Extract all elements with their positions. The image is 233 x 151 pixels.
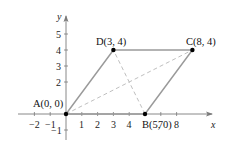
- y-tick-label: 2: [56, 77, 61, 88]
- point-label-c: C(8, 4): [186, 36, 216, 48]
- point-d: [111, 48, 115, 52]
- point-label-a: A(0, 0): [33, 98, 64, 110]
- point-label-d: D(3, 4): [96, 36, 127, 48]
- y-axis-label: y: [56, 11, 62, 22]
- x-tick-label: 3: [111, 119, 116, 130]
- y-tick-label: 5: [56, 29, 61, 40]
- x-tick-label: 2: [95, 119, 100, 130]
- x-tick-label: 4: [127, 119, 132, 130]
- x-tick-label: 8: [174, 119, 179, 130]
- coordinate-diagram: −2 −1 1 2 3 4 7 8 x 5 4 3 2 −1 y A(0, 0)…: [0, 0, 233, 151]
- y-tick-label: −1: [51, 125, 62, 136]
- x-axis-label: x: [210, 119, 216, 130]
- diagonal-bd: [113, 50, 145, 114]
- y-tick-label: 3: [56, 61, 61, 72]
- y-tick-label: 4: [56, 45, 61, 56]
- x-tick-label: −2: [29, 119, 40, 130]
- point-b: [143, 112, 147, 116]
- diagonals: [66, 50, 192, 114]
- point-a: [64, 112, 68, 116]
- point-label-b: B(5, 0): [142, 119, 172, 131]
- x-tick-label: 1: [79, 119, 84, 130]
- point-c: [190, 48, 194, 52]
